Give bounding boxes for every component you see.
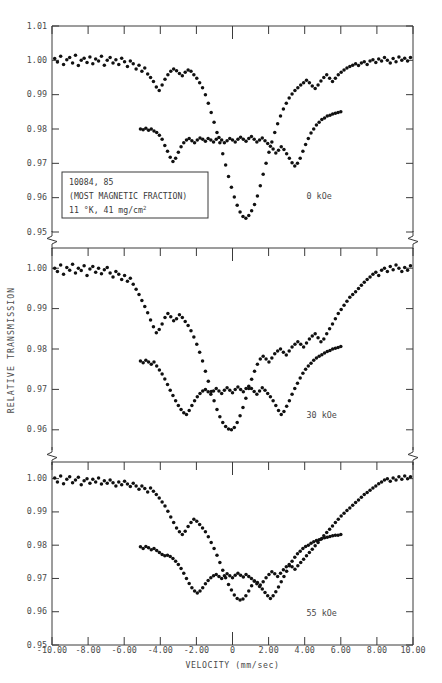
data-point — [146, 311, 150, 315]
data-point — [163, 144, 167, 148]
data-point — [158, 133, 162, 137]
data-point — [339, 345, 343, 349]
data-point — [126, 482, 130, 486]
annotation-line-1: 10084, 85 — [69, 177, 113, 187]
data-point — [287, 96, 291, 100]
data-point — [271, 147, 275, 151]
data-point — [253, 369, 257, 373]
data-point — [250, 135, 254, 139]
panel-55-kOe: 0.950.960.970.980.991.0055 kOe — [27, 462, 413, 650]
data-point — [389, 265, 393, 269]
data-point — [270, 356, 274, 360]
data-point — [299, 561, 303, 565]
data-point — [186, 324, 190, 328]
data-point — [215, 553, 219, 557]
data-point — [53, 476, 57, 480]
data-point — [311, 84, 315, 88]
data-point — [293, 387, 297, 391]
data-point — [299, 83, 303, 87]
y-tick-label: 0.97 — [27, 384, 47, 394]
data-point — [316, 83, 320, 87]
data-point — [282, 350, 286, 354]
data-point — [261, 136, 265, 140]
data-point — [149, 76, 153, 80]
y-tick-label: 1.00 — [27, 55, 47, 65]
data-point — [111, 61, 115, 65]
data-point — [244, 217, 248, 221]
data-point — [276, 349, 280, 353]
data-point — [296, 340, 300, 344]
data-point — [183, 529, 187, 533]
data-point — [166, 383, 170, 387]
data-point — [160, 322, 164, 326]
data-point — [183, 71, 187, 75]
data-point — [189, 521, 193, 525]
x-tick-label: 4.00 — [295, 645, 315, 655]
data-point — [79, 59, 83, 63]
data-point — [354, 290, 358, 294]
data-point — [207, 535, 211, 539]
data-point — [149, 318, 153, 322]
data-point — [409, 475, 413, 479]
data-point — [261, 587, 265, 591]
data-point — [261, 580, 265, 584]
data-point — [120, 57, 124, 61]
data-point — [282, 148, 286, 152]
data-point — [100, 482, 104, 486]
data-point — [277, 149, 281, 153]
data-point — [174, 559, 178, 563]
data-point — [126, 279, 130, 283]
data-point — [244, 387, 248, 391]
data-point — [406, 268, 410, 272]
data-point — [129, 277, 133, 281]
data-point — [261, 173, 265, 177]
data-point — [137, 293, 141, 297]
data-point — [212, 120, 216, 124]
data-point — [266, 594, 270, 598]
data-point — [311, 334, 315, 338]
data-point — [308, 551, 312, 555]
data-point — [177, 404, 181, 408]
data-point — [233, 388, 237, 392]
data-point — [266, 392, 270, 396]
data-point — [233, 140, 237, 144]
data-point — [319, 340, 323, 344]
data-point — [158, 368, 162, 372]
data-point — [383, 56, 387, 60]
data-point — [77, 64, 81, 68]
data-point — [285, 152, 289, 156]
data-point — [334, 317, 338, 321]
data-point — [177, 563, 181, 567]
data-point — [394, 478, 398, 482]
data-point — [74, 271, 78, 275]
data-point — [91, 265, 95, 269]
data-point — [271, 594, 275, 598]
data-point — [187, 582, 191, 586]
data-point — [409, 264, 413, 268]
data-point — [277, 585, 281, 589]
data-point — [171, 557, 175, 561]
data-point — [56, 60, 60, 64]
data-point — [290, 161, 294, 165]
data-point — [185, 577, 189, 581]
data-point — [147, 360, 151, 364]
y-tick-label: 1.00 — [27, 263, 47, 273]
data-point — [225, 386, 229, 390]
data-point — [334, 76, 338, 80]
data-point — [304, 367, 308, 371]
data-point — [380, 268, 384, 272]
data-point — [238, 414, 242, 418]
y-tick-label: 0.98 — [27, 344, 47, 354]
data-point — [296, 564, 300, 568]
data-point — [241, 406, 245, 410]
data-point — [252, 138, 256, 142]
data-point — [296, 86, 300, 90]
series-expanded-inset — [139, 110, 343, 168]
data-point — [285, 353, 289, 357]
data-point — [134, 287, 138, 291]
data-point — [296, 382, 300, 386]
data-point — [285, 102, 289, 106]
data-point — [386, 270, 390, 274]
data-point — [53, 266, 57, 270]
data-point — [339, 514, 343, 518]
